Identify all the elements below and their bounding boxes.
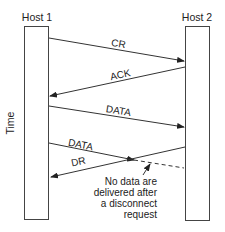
dr-label: DR: [70, 155, 86, 169]
host1-timeline-box: [25, 27, 49, 220]
host1-label: Host 1: [22, 11, 53, 23]
annotation-line-4: request: [124, 209, 158, 220]
host2-timeline-box: [186, 27, 210, 221]
host2-label: Host 2: [182, 11, 213, 23]
cr-label: CR: [111, 37, 127, 50]
annotation-line-3: a disconnect: [101, 198, 157, 209]
time-axis-label: Time: [4, 111, 16, 134]
data-lost-dashed-line: [134, 160, 184, 168]
annotation-line-2: delivered after: [94, 187, 158, 198]
data-label-2: DATA: [67, 137, 94, 153]
annotation-line-1: No data are: [105, 176, 158, 187]
ack-label: ACK: [109, 67, 132, 82]
annotation-pointer-arrow: [143, 164, 150, 175]
connection-release-diagram: Host 1 Host 2 Time CR ACK DATA DATA DR N…: [0, 0, 225, 232]
